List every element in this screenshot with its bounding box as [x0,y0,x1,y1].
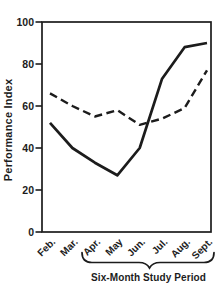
y-tick-label: 40 [22,142,34,154]
y-axis-ticks [36,22,43,232]
x-label-2: Apr. [81,236,103,258]
x-label-6: Aug. [169,236,193,260]
y-axis-tick-labels: 100 80 60 40 20 0 [16,16,34,238]
y-tick-label: 60 [22,100,34,112]
y-axis-title: Performance Index [2,78,14,181]
x-label-5: Jul. [150,236,170,256]
plot-border [42,22,211,232]
x-label-3: May [103,236,125,258]
series-solid-line [50,43,207,175]
y-tick-label: 0 [28,226,34,238]
series-dashed-line [50,70,207,125]
x-axis-labels: Feb. Mar. Apr. May Jun. Jul. Aug. Sept. [35,236,214,261]
chart-figure: Performance Index 100 80 60 40 20 0 Feb.… [0,0,224,287]
performance-index-chart: Performance Index 100 80 60 40 20 0 Feb.… [0,0,224,287]
x-label-1: Mar. [58,236,80,258]
x-label-0: Feb. [35,236,57,258]
x-label-4: Jun. [125,236,147,258]
y-tick-label: 100 [16,16,34,28]
y-tick-label: 80 [22,58,34,70]
x-axis-title: Six-Month Study Period [91,272,206,283]
y-tick-label: 20 [22,184,34,196]
x-label-7: Sept. [189,236,214,261]
